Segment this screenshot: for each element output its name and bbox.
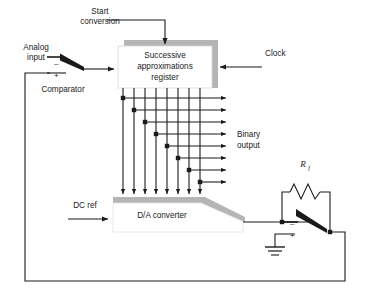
junction-dot-7 bbox=[187, 168, 191, 172]
sar-label-line3: register bbox=[151, 73, 179, 82]
clock-group: Clock bbox=[220, 49, 286, 67]
output-comparator-minus-sign: – bbox=[290, 219, 295, 228]
start-conversion-group: Start conversion bbox=[80, 7, 165, 44]
resistor-left-lead bbox=[282, 192, 290, 222]
dc-ref-group: DC ref bbox=[68, 201, 108, 219]
start-conversion-label-line1: Start bbox=[91, 7, 109, 16]
ground-symbol bbox=[265, 247, 285, 255]
dac-label: D/A converter bbox=[137, 211, 187, 220]
binary-output-label-line1: Binary bbox=[237, 130, 261, 139]
diagram-canvas: Successive approximations register Start… bbox=[0, 0, 365, 295]
junction-dot-2 bbox=[132, 108, 136, 112]
junction-dot-5 bbox=[165, 144, 169, 148]
junction-dot-6 bbox=[176, 156, 180, 160]
adc-block-diagram: Successive approximations register Start… bbox=[0, 0, 365, 295]
junction-dot-1 bbox=[121, 96, 125, 100]
comparator-symbol bbox=[60, 54, 84, 72]
start-conversion-label-line2: conversion bbox=[80, 17, 120, 26]
sar-label-line2: approximations bbox=[137, 62, 193, 71]
output-comparator-group: – + bbox=[275, 209, 332, 247]
junction-dot-3 bbox=[143, 120, 147, 124]
binary-output-group: Binary output bbox=[237, 130, 261, 150]
analog-input-group: Analog input – + Comparator bbox=[23, 43, 114, 94]
clock-label: Clock bbox=[265, 49, 286, 58]
comparator-plus-sign: + bbox=[54, 71, 59, 80]
dac-output-wire-group bbox=[243, 220, 312, 224]
comparator-label: Comparator bbox=[41, 85, 85, 94]
dac-block: D/A converter bbox=[113, 197, 245, 232]
analog-input-label-line2: input bbox=[27, 53, 45, 62]
dc-ref-label: DC ref bbox=[73, 201, 97, 210]
junction-dot-4 bbox=[154, 132, 158, 136]
feedback-loop-wire bbox=[25, 73, 345, 281]
binary-output-label-line2: output bbox=[237, 141, 260, 150]
sar-block: Successive approximations register bbox=[118, 40, 218, 88]
output-comparator-symbol bbox=[296, 209, 327, 233]
feedback-resistor-subscript: f bbox=[308, 164, 311, 171]
junction-dot-8 bbox=[198, 180, 202, 184]
analog-input-label-line1: Analog bbox=[23, 43, 49, 52]
sar-label-line1: Successive bbox=[144, 51, 186, 60]
feedback-resistor-label: R bbox=[299, 159, 306, 169]
output-comparator-plus-sign: + bbox=[290, 231, 295, 240]
feedback-loop bbox=[25, 73, 345, 281]
bit-line-matrix bbox=[121, 88, 226, 194]
resistor-zigzag bbox=[290, 184, 320, 199]
comparator-minus-sign: – bbox=[54, 59, 59, 68]
